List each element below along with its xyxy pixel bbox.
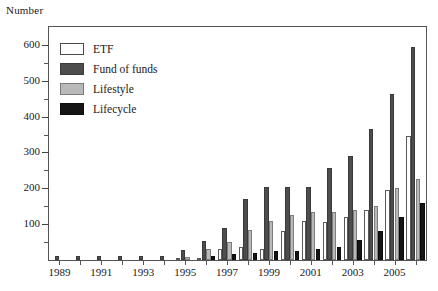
bar-group bbox=[321, 27, 342, 260]
legend-item-lifestyle: Lifestyle bbox=[60, 80, 158, 97]
x-axis-tick bbox=[101, 261, 102, 265]
y-axis-tick bbox=[42, 117, 49, 118]
x-axis-tick bbox=[290, 261, 291, 265]
x-axis-tick bbox=[332, 261, 333, 265]
bar-fof bbox=[97, 256, 101, 260]
y-axis-tick-label: 100 bbox=[0, 218, 40, 228]
legend-item-etf: ETF bbox=[60, 40, 158, 57]
bar-lifecycle bbox=[232, 254, 236, 260]
x-axis-tick bbox=[395, 261, 396, 265]
bar-group bbox=[238, 27, 259, 260]
bar-lifecycle bbox=[378, 231, 382, 260]
legend-swatch-fof-icon bbox=[60, 63, 84, 75]
bar-fof bbox=[76, 256, 80, 260]
x-axis-tick bbox=[80, 261, 81, 265]
y-axis-tick bbox=[42, 81, 49, 82]
x-axis-tick-label: 1999 bbox=[249, 266, 289, 278]
bar-fof bbox=[139, 256, 143, 260]
bar-lifecycle bbox=[316, 249, 320, 260]
bar-lifecycle bbox=[337, 247, 341, 260]
bar-group bbox=[258, 27, 279, 260]
x-axis-tick bbox=[248, 261, 249, 265]
x-axis-tick-label: 1993 bbox=[123, 266, 163, 278]
bar-group bbox=[175, 27, 196, 260]
x-axis-tick-label: 2005 bbox=[375, 266, 415, 278]
x-axis-tick bbox=[185, 261, 186, 265]
chart-legend: ETFFund of fundsLifestyleLifecycle bbox=[60, 40, 158, 120]
bar-fof bbox=[160, 256, 164, 260]
bar-lifecycle bbox=[253, 253, 257, 260]
y-axis-tick-label: 400 bbox=[0, 111, 40, 121]
legend-item-lifecycle: Lifecycle bbox=[60, 100, 158, 117]
legend-swatch-etf-icon bbox=[60, 43, 84, 55]
bar-lifecycle bbox=[211, 256, 215, 260]
x-axis-tick bbox=[206, 261, 207, 265]
x-axis-tick bbox=[374, 261, 375, 265]
y-axis-tick bbox=[42, 152, 49, 153]
bar-group bbox=[384, 27, 405, 260]
bar-group bbox=[217, 27, 238, 260]
bar-group bbox=[196, 27, 217, 260]
legend-swatch-lifestyle-icon bbox=[60, 83, 84, 95]
x-axis-tick bbox=[59, 261, 60, 265]
bar-fof bbox=[118, 256, 122, 260]
x-axis-tick-label: 1997 bbox=[207, 266, 247, 278]
y-axis-tick-label: 500 bbox=[0, 75, 40, 85]
legend-item-label: Lifestyle bbox=[93, 83, 134, 95]
bar-lifecycle bbox=[274, 251, 278, 260]
x-axis-tick bbox=[227, 261, 228, 265]
bar-group bbox=[405, 27, 426, 260]
x-axis-tick bbox=[311, 261, 312, 265]
bar-lifecycle bbox=[357, 240, 361, 260]
y-axis-tick-label: 300 bbox=[0, 146, 40, 156]
y-axis-tick bbox=[42, 188, 49, 189]
y-axis-title: Number bbox=[6, 4, 43, 16]
bar-group bbox=[342, 27, 363, 260]
legend-item-label: Fund of funds bbox=[93, 63, 158, 75]
bar-group bbox=[363, 27, 384, 260]
bar-lifecycle bbox=[399, 217, 403, 260]
bar-group bbox=[300, 27, 321, 260]
x-axis-tick bbox=[416, 261, 417, 265]
x-axis-tick-label: 1989 bbox=[39, 266, 79, 278]
bar-group bbox=[279, 27, 300, 260]
legend-swatch-lifecycle-icon bbox=[60, 103, 84, 115]
bar-chart: Number 100200300400500600 19891991199319… bbox=[0, 0, 438, 291]
y-axis-tick-label: 600 bbox=[0, 39, 40, 49]
bar-lifecycle bbox=[295, 251, 299, 260]
x-axis-tick-label: 1991 bbox=[81, 266, 121, 278]
y-axis-tick bbox=[42, 45, 49, 46]
y-axis-tick-label: 200 bbox=[0, 182, 40, 192]
x-axis-tick bbox=[353, 261, 354, 265]
x-axis-tick bbox=[122, 261, 123, 265]
x-axis-tick bbox=[164, 261, 165, 265]
x-axis-tick-label: 2003 bbox=[333, 266, 373, 278]
bar-fof bbox=[55, 256, 59, 260]
legend-item-label: Lifecycle bbox=[93, 103, 136, 115]
legend-item-fof: Fund of funds bbox=[60, 60, 158, 77]
legend-item-label: ETF bbox=[93, 43, 113, 55]
x-axis-tick-label: 2001 bbox=[291, 266, 331, 278]
bar-lifecycle bbox=[420, 203, 424, 260]
y-axis-tick bbox=[42, 224, 49, 225]
x-axis-tick-label: 1995 bbox=[165, 266, 205, 278]
x-axis-tick bbox=[269, 261, 270, 265]
x-axis-tick bbox=[143, 261, 144, 265]
bar-lifestyle bbox=[185, 257, 189, 260]
